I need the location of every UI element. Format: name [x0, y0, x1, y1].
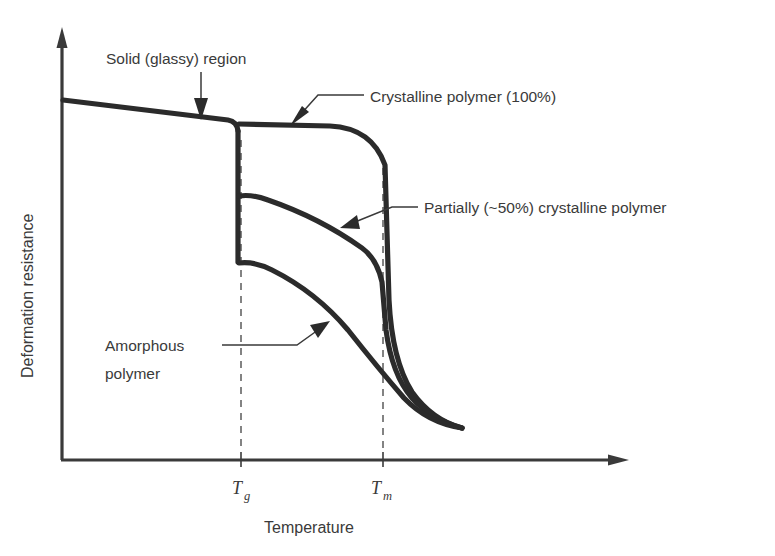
amorphous-arrowhead	[310, 321, 330, 338]
polymer-deformation-resistance-figure: Solid (glassy) region Crystalline polyme…	[0, 0, 775, 556]
text-labels-group: Solid (glassy) region Crystalline polyme…	[19, 50, 666, 536]
label-amorphous-polymer-line2: polymer	[105, 365, 160, 382]
curve-glassy-plateau	[63, 100, 238, 131]
x-axis-arrowhead	[608, 455, 629, 466]
curve-partially-crystalline-polymer	[239, 196, 462, 429]
x-axis-title: Temperature	[264, 519, 354, 536]
y-axis-arrowhead	[57, 27, 68, 48]
y-axis-title: Deformation resistance	[19, 213, 36, 378]
amorphous-leader-line	[222, 330, 318, 345]
guide-lines-group	[241, 140, 383, 467]
chart-canvas: Solid (glassy) region Crystalline polyme…	[0, 0, 775, 556]
tick-label-tg-subscript: g	[244, 489, 250, 503]
partially-crystalline-arrowhead	[340, 215, 360, 229]
tick-label-tm-base: T	[371, 478, 383, 498]
label-solid-glassy-region: Solid (glassy) region	[106, 50, 246, 67]
label-amorphous-polymer-line1: Amorphous	[105, 337, 185, 354]
curve-crystalline-polymer	[239, 124, 462, 428]
label-partially-crystalline-polymer: Partially (~50%) crystalline polymer	[424, 199, 666, 216]
label-crystalline-polymer: Crystalline polymer (100%)	[370, 88, 556, 105]
tick-label-tm-subscript: m	[383, 489, 392, 503]
crystalline-leader-line	[300, 95, 364, 115]
tick-label-tg-base: T	[232, 478, 244, 498]
